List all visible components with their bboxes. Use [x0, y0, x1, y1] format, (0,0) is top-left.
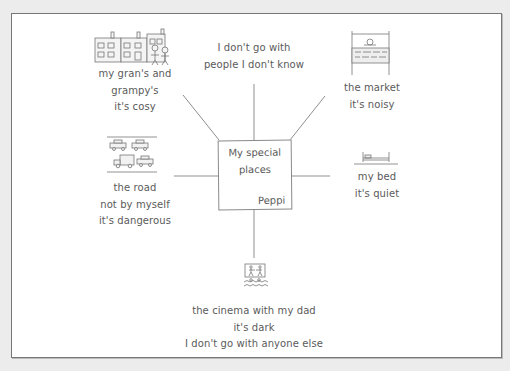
label-line: my bed: [346, 169, 408, 186]
houses-and-people-icon: [93, 28, 175, 66]
branch-cinema-label: the cinema with my dad it's dark I don't…: [164, 303, 344, 353]
label-line: not by myself: [92, 197, 178, 214]
branch-market-label: the market it's noisy: [339, 80, 405, 113]
label-line: the road: [92, 180, 178, 197]
author-name: Peppi: [258, 195, 285, 206]
branch-bed-label: my bed it's quiet: [346, 169, 408, 202]
label-line: grampy's: [92, 83, 178, 100]
market-stall-icon: [350, 29, 392, 77]
label-line: it's quiet: [346, 186, 408, 203]
line-to-market: [290, 96, 325, 140]
label-line: the market: [339, 80, 405, 97]
center-title-line: My special: [219, 145, 291, 162]
branch-grans-label: my gran's and grampy's it's cosy: [92, 66, 178, 116]
cars-on-road-icon: [106, 135, 158, 175]
label-line: people I don't know: [196, 57, 312, 74]
label-line: it's cosy: [92, 99, 178, 116]
branch-strangers-label: I don't go with people I don't know: [196, 40, 312, 73]
label-line: it's dangerous: [92, 213, 178, 230]
label-line: the cinema with my dad: [164, 303, 344, 320]
cinema-screen-icon: [242, 263, 270, 291]
label-line: it's noisy: [339, 97, 405, 114]
label-line: I don't go with: [196, 40, 312, 57]
center-title: My special places: [219, 145, 291, 179]
label-line: I don't go with anyone else: [164, 336, 344, 353]
branch-road-label: the road not by myself it's dangerous: [92, 180, 178, 230]
line-to-grans: [183, 95, 219, 140]
label-line: it's dark: [164, 320, 344, 337]
label-line: my gran's and: [92, 66, 178, 83]
center-title-line: places: [219, 161, 291, 178]
bed-icon: [353, 150, 399, 166]
center-topic-box: My special places Peppi: [218, 140, 293, 211]
